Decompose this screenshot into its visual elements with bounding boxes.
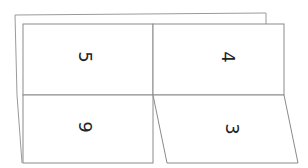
panel-label-bottom-left: 9 [75,121,96,132]
panel-label-top-left: 5 [75,51,96,62]
panel-label-bottom-right: 3 [222,123,243,134]
folded-paper-diagram: 5 4 9 3 [0,0,308,168]
panel-label-top-right: 4 [218,51,239,62]
